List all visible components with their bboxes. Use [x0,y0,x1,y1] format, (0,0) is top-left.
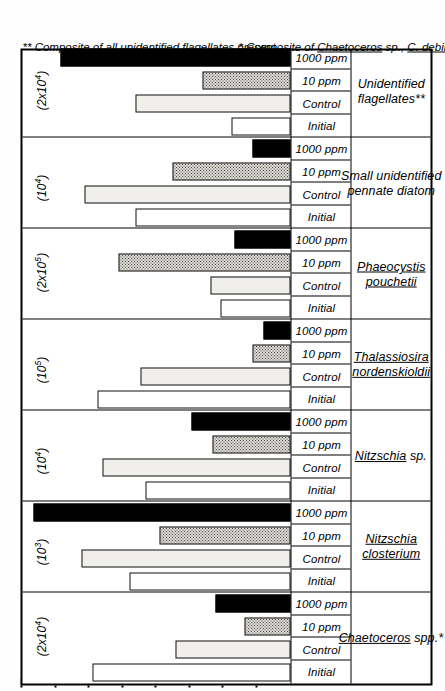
treatment-label-row: InitialControl10 ppm1000 ppmInitialContr… [291,50,351,683]
bar-1000-ppm [263,321,290,339]
species-cell: Thalassiosiranordenskioldii [351,319,430,410]
treatment-label: 1000 ppm [295,233,347,245]
treatment-cell: Initial [291,660,350,683]
treatment-cell: 1000 ppm [291,228,350,251]
treatment-cell: 10 ppm [291,69,350,92]
bar-10-ppm [118,253,290,271]
species-cell: Chaetoceros spp.* [351,592,430,683]
panel-scale-label: (103) [32,538,48,565]
treatment-cell: Control [291,547,350,570]
treatment-label: 1000 ppm [295,506,347,518]
treatment-label: 10 ppm [301,438,340,450]
species-cell: Phaeocystispouchetii [351,228,430,319]
treatment-cell: Initial [291,478,350,501]
bar-10-ppm [244,617,290,635]
bar-initial [220,299,290,317]
treatment-label: 1000 ppm [295,142,347,154]
bar-control [140,367,290,385]
cell-separator [291,546,350,547]
treatment-label: 10 ppm [301,256,340,268]
bar-control [175,640,290,658]
bar-initial [135,208,290,226]
cell-separator [291,68,350,69]
bar-1000-ppm [215,594,290,612]
panel-scale-label: (104) [32,174,48,201]
treatment-cell: 1000 ppm [291,137,350,160]
treatment-label: Control [302,461,340,473]
treatment-label: 1000 ppm [295,51,347,63]
treatment-label: 10 ppm [301,74,340,86]
panel-scale-label: (104) [32,447,48,474]
cell-separator [291,386,350,387]
bar-initial [231,117,290,135]
bar-initial [92,663,290,681]
species-cell: Unidentifiedflagellates** [351,46,430,137]
treatment-label: 1000 ppm [295,597,347,609]
treatment-label: 10 ppm [301,529,340,541]
treatment-cell: 1000 ppm [291,501,350,524]
treatment-label: Control [302,279,340,291]
panel-separator [22,136,430,137]
bar-control [210,276,290,294]
cell-separator [291,113,350,114]
bar-control [81,549,290,567]
panel-separator [22,227,430,228]
bar-10-ppm [202,71,290,89]
treatment-label: Control [302,552,340,564]
cell-separator [291,250,350,251]
treatment-label: 10 ppm [301,165,340,177]
bar-initial [97,390,290,408]
species-label: Chaetoceros spp.* [338,630,442,645]
cell-separator [291,523,350,524]
treatment-cell: Control [291,274,350,297]
bar-control [135,94,290,112]
bar-10-ppm [252,344,290,362]
cell-separator [291,341,350,342]
plot-area: (2x104)(103)(104)(105)(2x105)(104)(2x104… [22,50,290,683]
bar-control [102,458,290,476]
treatment-cell: Initial [291,114,350,137]
treatment-cell: Initial [291,205,350,228]
cell-separator [291,477,350,478]
cell-separator [291,295,350,296]
cell-separator [291,568,350,569]
bar-10-ppm [212,435,290,453]
panel-separator [22,500,430,501]
bar-1000-ppm [234,230,290,248]
species-label: Unidentifiedflagellates** [357,77,424,107]
cell-separator [291,273,350,274]
species-label: Thalassiosiranordenskioldii [352,350,430,380]
bar-control [84,185,290,203]
treatment-label: Initial [307,211,335,223]
treatment-label: Control [302,370,340,382]
treatment-label: Control [302,643,340,655]
treatment-label: Initial [307,393,335,405]
species-cell: Nitzschia sp. [351,410,430,501]
treatment-cell: 10 ppm [291,342,350,365]
cell-separator [291,204,350,205]
treatment-cell: 1000 ppm [291,410,350,433]
treatment-cell: Initial [291,569,350,592]
treatment-label: 10 ppm [301,620,340,632]
panel-separator [22,591,430,592]
species-label: Phaeocystispouchetii [356,259,425,289]
treatment-label: 1000 ppm [295,415,347,427]
treatment-label: Control [302,188,340,200]
panel-separator [22,318,430,319]
species-cell: Nitzschiaclosterium [351,501,430,592]
treatment-cell: 10 ppm [291,251,350,274]
treatment-cell: Control [291,456,350,479]
bar-1000-ppm [33,503,290,521]
treatment-cell: 1000 ppm [291,592,350,615]
treatment-label: Initial [307,575,335,587]
species-label: Nitzschia sp. [354,448,426,463]
treatment-label: Initial [307,120,335,132]
treatment-cell: 1000 ppm [291,319,350,342]
panel-separator [22,409,430,410]
treatment-label: Initial [307,484,335,496]
bar-10-ppm [172,162,290,180]
panel-scale-label: (2x105) [32,252,48,291]
treatment-cell: Initial [291,296,350,319]
cell-separator [291,159,350,160]
treatment-label: Control [302,97,340,109]
